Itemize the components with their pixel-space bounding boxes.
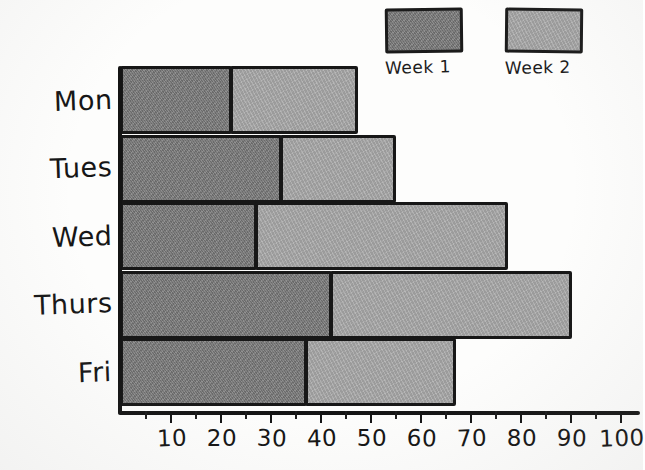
bar-segment-week-1 bbox=[120, 271, 332, 339]
plot-area bbox=[120, 66, 640, 414]
x-axis-tick-label-40: 40 bbox=[306, 424, 337, 451]
x-axis-minor-tick bbox=[595, 411, 597, 419]
x-axis-tick-label-90: 90 bbox=[556, 424, 587, 451]
x-axis-minor-tick bbox=[195, 411, 197, 419]
x-axis-minor-tick bbox=[445, 411, 447, 419]
chart-legend: Week 1 Week 2 bbox=[385, 8, 635, 88]
x-axis-major-tick bbox=[170, 411, 172, 423]
x-axis-minor-tick bbox=[395, 411, 397, 419]
bar-segment-week-1 bbox=[120, 135, 282, 203]
x-axis-tick-label-100: 100 bbox=[599, 424, 645, 452]
x-axis-tick-label-80: 80 bbox=[507, 425, 537, 451]
x-axis-minor-tick bbox=[295, 411, 297, 419]
bar-segment-week-2 bbox=[230, 66, 358, 134]
x-axis-minor-tick bbox=[545, 411, 547, 419]
y-axis-line bbox=[118, 66, 122, 414]
x-axis-major-tick bbox=[470, 411, 472, 423]
x-axis-major-tick bbox=[220, 411, 222, 423]
legend-swatch-week-1 bbox=[385, 8, 464, 54]
legend-label-week-1: Week 1 bbox=[385, 55, 482, 78]
bar-segment-week-2 bbox=[305, 338, 456, 406]
legend-swatch-week-2 bbox=[505, 8, 583, 54]
x-axis-ticks: 102030405060708090100 bbox=[120, 411, 642, 467]
bar-segment-week-2 bbox=[280, 135, 396, 203]
x-axis-tick-label-30: 30 bbox=[256, 424, 287, 451]
x-axis-tick-label-20: 20 bbox=[207, 425, 237, 451]
bar-segment-week-2 bbox=[330, 271, 572, 339]
x-axis-major-tick bbox=[520, 411, 522, 423]
legend-entry-week-2: Week 2 bbox=[505, 8, 601, 78]
y-axis-category-labels: MonTuesWedThursFri bbox=[0, 66, 118, 414]
y-axis-label-fri: Fri bbox=[78, 356, 113, 388]
bar-segment-week-1 bbox=[120, 202, 257, 270]
x-axis-minor-tick bbox=[245, 411, 247, 419]
x-axis-major-tick bbox=[570, 411, 572, 423]
bar-segment-week-2 bbox=[255, 202, 508, 270]
x-axis-tick-label-10: 10 bbox=[156, 424, 187, 451]
x-axis-minor-tick bbox=[345, 411, 347, 419]
x-axis-minor-tick bbox=[145, 411, 147, 419]
x-axis-major-tick bbox=[370, 411, 372, 423]
bar-segment-week-1 bbox=[120, 338, 307, 406]
x-axis-major-tick bbox=[420, 411, 422, 423]
y-axis-label-thurs: Thurs bbox=[33, 287, 112, 321]
x-axis-tick-label-50: 50 bbox=[357, 425, 387, 451]
x-axis-tick-label-60: 60 bbox=[406, 424, 437, 451]
bar-segment-week-1 bbox=[120, 66, 232, 134]
legend-label-week-2: Week 2 bbox=[505, 56, 601, 78]
x-axis-major-tick bbox=[620, 411, 622, 423]
y-axis-label-mon: Mon bbox=[53, 84, 112, 117]
y-axis-label-wed: Wed bbox=[51, 220, 112, 253]
y-axis-label-tues: Tues bbox=[49, 151, 112, 184]
x-axis-major-tick bbox=[270, 411, 272, 423]
legend-entry-week-1: Week 1 bbox=[385, 8, 481, 78]
x-axis-tick-label-70: 70 bbox=[456, 424, 487, 451]
x-axis-minor-tick bbox=[495, 411, 497, 419]
x-axis-major-tick bbox=[320, 411, 322, 423]
